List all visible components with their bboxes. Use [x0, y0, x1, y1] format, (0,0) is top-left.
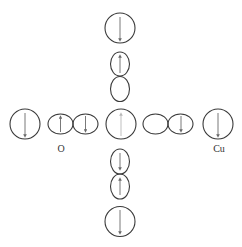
cu-left-orbital [10, 109, 40, 139]
o-left-orbital [48, 114, 98, 134]
cu-right-orbital [203, 109, 233, 139]
copper-label: Cu [213, 143, 225, 154]
o-right-orbital [143, 114, 193, 134]
o-bottom-orbital [111, 149, 130, 199]
cu-bottom-orbital [105, 207, 135, 237]
cu-center-orbital [106, 109, 136, 139]
o-top-orbital [111, 52, 130, 102]
cu-top-orbital [105, 13, 135, 43]
oxygen-label: O [57, 143, 64, 154]
cu-o-spin-diagram: O Cu [0, 0, 242, 247]
